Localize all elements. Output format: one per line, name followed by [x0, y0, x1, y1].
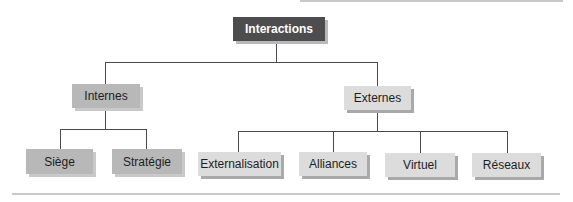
connector-externes-down	[377, 110, 378, 131]
connector-virtuel-up	[420, 131, 421, 153]
bottom-rule	[12, 193, 560, 195]
connector-strategie-up	[146, 129, 147, 149]
node-alliances: Alliances	[299, 152, 367, 176]
node-internes: Internes	[72, 84, 140, 108]
connector-internes-horizontal	[60, 129, 147, 130]
node-virtuel: Virtuel	[385, 153, 455, 177]
connector-internes-down	[105, 108, 106, 129]
node-reseaux: Réseaux	[472, 153, 541, 177]
connector-reseaux-up	[507, 131, 508, 153]
node-externalisation: Externalisation	[198, 152, 281, 176]
node-interactions: Interactions	[233, 17, 325, 41]
node-strategie: Stratégie	[112, 149, 182, 174]
connector-internes-up	[105, 62, 106, 84]
connector-alliances-up	[333, 131, 334, 152]
connector-level1-horizontal	[105, 62, 378, 63]
connector-externes-up	[377, 62, 378, 86]
connector-root-down	[276, 41, 277, 62]
connector-externalisation-up	[238, 131, 239, 152]
node-siege: Siège	[26, 149, 93, 174]
top-rule	[300, 0, 563, 2]
connector-siege-up	[60, 129, 61, 149]
connector-externes-horizontal	[238, 131, 508, 132]
node-externes: Externes	[344, 86, 411, 110]
